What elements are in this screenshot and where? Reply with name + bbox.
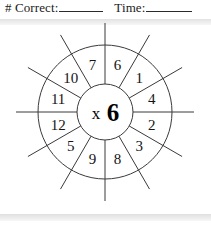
wheel-sector-number[interactable]: 5 (67, 138, 75, 154)
correct-input-blank[interactable] (59, 0, 103, 12)
correct-field[interactable]: # Correct: (5, 0, 103, 16)
wheel-spoke (61, 136, 92, 189)
wheel-sector-number[interactable]: 8 (114, 151, 122, 167)
center-factor: 6 (107, 99, 120, 126)
time-label: Time: (114, 0, 145, 16)
time-input-blank[interactable] (146, 0, 192, 12)
time-field[interactable]: Time: (114, 0, 192, 16)
wheel-sector-number[interactable]: 11 (51, 91, 65, 107)
inner-circle (77, 84, 133, 140)
worksheet-header: # Correct: Time: (0, 0, 211, 17)
wheel-sector-number[interactable]: 10 (63, 70, 78, 86)
correct-label: # Correct: (5, 0, 58, 16)
wheel-spoke (119, 136, 150, 189)
center-operator: x (92, 104, 101, 123)
wheel-sector-number[interactable]: 3 (136, 138, 144, 154)
wheel-sector-number[interactable]: 1 (136, 70, 144, 86)
wheel-spoke (119, 35, 150, 88)
wheel-sector-number[interactable]: 6 (114, 57, 122, 73)
wheel-sector-number[interactable]: 4 (148, 91, 156, 107)
wheel-container: 614238951211107 x 6 (0, 22, 211, 206)
wheel-sector-number[interactable]: 7 (89, 57, 97, 73)
wheel-sector-number[interactable]: 12 (51, 117, 66, 133)
multiplication-wheel-svg: 614238951211107 x 6 (0, 22, 211, 206)
wheel-sector-number[interactable]: 9 (89, 151, 97, 167)
wheel-sector-number[interactable]: 2 (148, 117, 156, 133)
footer-divider (0, 214, 211, 221)
multiplication-wheel-worksheet: # Correct: Time: 614238951211107 x 6 (0, 0, 211, 227)
